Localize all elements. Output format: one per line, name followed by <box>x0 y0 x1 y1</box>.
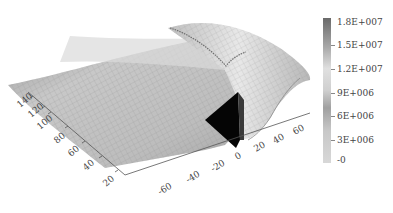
svg-text:40: 40 <box>81 157 96 172</box>
colorbar-tick <box>331 140 335 141</box>
colorbar-label: 1.5E+007 <box>337 40 383 50</box>
svg-text:-60: -60 <box>156 181 174 197</box>
svg-text:60: 60 <box>291 122 306 137</box>
colorbar-tick <box>331 69 335 70</box>
svg-text:0: 0 <box>233 150 243 162</box>
colorbar <box>323 18 331 163</box>
colorbar-label: 6E+006 <box>337 111 374 121</box>
colorbar-label-max: 1.8E+007 <box>337 17 383 27</box>
svg-text:40: 40 <box>271 131 286 146</box>
svg-text:20: 20 <box>101 173 116 188</box>
colorbar-label: 1.2E+007 <box>337 64 383 74</box>
svg-text:-20: -20 <box>209 158 227 174</box>
colorbar-label: 3E+006 <box>337 135 374 145</box>
colorbar-label-min: -0 <box>337 155 346 165</box>
colorbar-tick <box>331 45 335 46</box>
colorbar-tick <box>331 116 335 117</box>
colorbar-label: 9E+006 <box>337 88 374 98</box>
surface-plot: 140 120 100 80 60 40 20 -60 -40 -20 0 20… <box>0 0 393 213</box>
svg-text:-40: -40 <box>184 169 202 185</box>
svg-text:20: 20 <box>252 139 267 154</box>
colorbar-tick <box>331 93 335 94</box>
